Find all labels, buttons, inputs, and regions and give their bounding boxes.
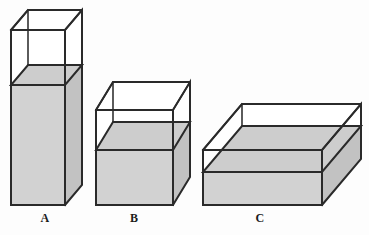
container-c: C	[203, 104, 361, 225]
container-b-label: B	[130, 211, 138, 225]
container-a: A	[11, 10, 82, 225]
figure-canvas: A B C	[0, 0, 369, 235]
three-containers-diagram: A B C	[0, 0, 369, 235]
container-b-liquid-front	[96, 150, 173, 205]
container-b: B	[96, 82, 190, 225]
container-a-liquid-side	[65, 65, 82, 205]
container-a-label: A	[41, 211, 50, 225]
container-c-liquid-front	[203, 172, 322, 205]
container-c-label: C	[256, 211, 265, 225]
container-a-liquid-front	[11, 85, 65, 205]
